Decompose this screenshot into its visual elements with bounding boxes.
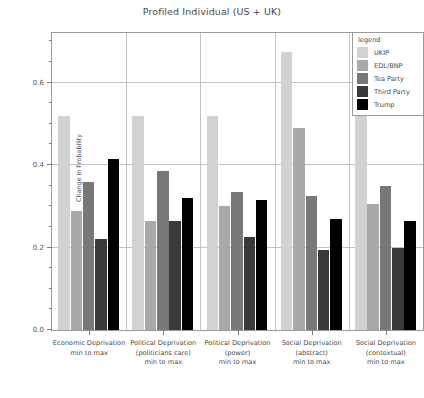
legend-swatch-icon (357, 99, 368, 110)
legend-swatch-icon (357, 47, 368, 58)
legend-item[interactable]: Trump (357, 98, 419, 111)
chart-title: Profiled Individual (US + UK) (0, 6, 424, 17)
bar-trump (404, 221, 415, 330)
legend-item[interactable]: EDL/BNP (357, 59, 419, 72)
bar-third-party (244, 237, 255, 330)
bar-tea-party (231, 192, 242, 330)
bar-group (52, 33, 126, 330)
bar-edl-bnp (367, 204, 378, 330)
legend-label: Third Party (374, 88, 410, 96)
bar-edl-bnp (219, 206, 230, 330)
bar-third-party (169, 221, 180, 330)
x-tick (163, 330, 164, 335)
x-tick (238, 330, 239, 335)
legend-item[interactable]: Third Party (357, 85, 419, 98)
legend-item[interactable]: UKIP (357, 46, 419, 59)
legend-swatch-icon (357, 60, 368, 71)
bar-edl-bnp (71, 211, 82, 330)
y-tick-label: 0.2 (33, 244, 44, 252)
legend-label: EDL/BNP (374, 62, 403, 70)
bar-trump (108, 159, 119, 330)
bar-third-party (95, 239, 106, 330)
bar-group (200, 33, 274, 330)
bar-ukip (207, 116, 218, 331)
legend: legend UKIPEDL/BNPTea PartyThird PartyTr… (352, 32, 424, 116)
legend-swatch-icon (357, 86, 368, 97)
bar-trump (330, 219, 341, 330)
legend-label: Tea Party (374, 75, 404, 83)
bar-third-party (318, 250, 329, 330)
x-tick (89, 330, 90, 335)
bar-tea-party (157, 171, 168, 330)
bar-group (275, 33, 349, 330)
x-axis-category-label: Social Deprivation (contextual) min to m… (341, 339, 424, 368)
bar-tea-party (306, 196, 317, 330)
bar-chart: Profiled Individual (US + UK) Change in … (0, 0, 424, 398)
bar-ukip (132, 116, 143, 331)
x-tick (312, 330, 313, 335)
bar-ukip (58, 116, 69, 331)
bar-edl-bnp (145, 221, 156, 330)
bar-tea-party (380, 186, 391, 330)
bar-group (126, 33, 200, 330)
bar-ukip (281, 52, 292, 330)
bar-edl-bnp (293, 128, 304, 330)
legend-swatch-icon (357, 73, 368, 84)
bar-third-party (392, 248, 403, 331)
bar-trump (256, 200, 267, 330)
legend-entries: UKIPEDL/BNPTea PartyThird PartyTrump (357, 46, 419, 111)
legend-label: UKIP (374, 49, 389, 57)
bar-trump (182, 198, 193, 330)
y-tick-label: 0.6 (33, 79, 44, 87)
x-tick (386, 330, 387, 335)
legend-item[interactable]: Tea Party (357, 72, 419, 85)
y-tick-label: 0.4 (33, 161, 44, 169)
legend-title: legend (357, 36, 419, 44)
y-tick-label: 0.0 (33, 326, 44, 334)
bar-ukip (355, 116, 366, 331)
bar-tea-party (83, 182, 94, 330)
legend-label: Trump (374, 101, 395, 109)
